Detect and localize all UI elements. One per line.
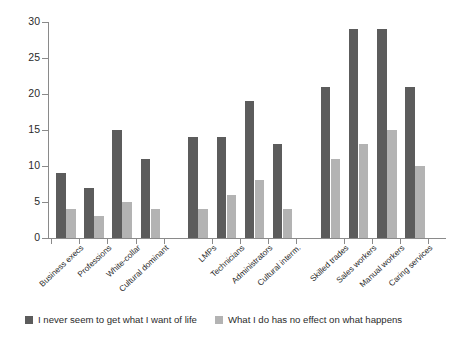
bar-series-1 [349, 29, 359, 238]
legend-item: I never seem to get what I want of life [25, 315, 197, 325]
bar-series-1 [141, 159, 151, 238]
legend-swatch [215, 316, 223, 324]
bar-series-1 [245, 101, 255, 238]
bar-series-1 [377, 29, 387, 238]
legend-item: What I do has no effect on what happens [215, 315, 402, 325]
legend-swatch [25, 316, 33, 324]
bars-layer [0, 0, 456, 238]
chart-legend: I never seem to get what I want of lifeW… [0, 310, 456, 330]
x-axis-labels: Business execsProfessionsWhite-collarCul… [0, 238, 456, 308]
x-axis-label-text: Business execs [39, 244, 86, 289]
legend-label: What I do has no effect on what happens [228, 315, 402, 325]
bar-chart: 051015202530 Business execsProfessionsWh… [0, 0, 456, 340]
legend-label: I never seem to get what I want of life [38, 315, 197, 325]
bar-series-1 [56, 173, 66, 238]
bar-series-1 [217, 137, 227, 238]
bar-series-1 [84, 188, 94, 238]
bar-series-2 [66, 209, 76, 238]
bar-series-2 [331, 159, 341, 238]
x-axis-label-text: LMPs [197, 244, 218, 264]
